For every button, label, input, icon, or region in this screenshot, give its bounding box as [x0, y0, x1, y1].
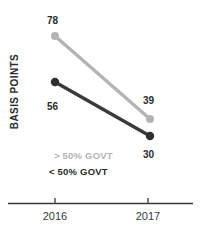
- value-label-high-2017: 39: [143, 95, 154, 106]
- data-point-low-2016: [51, 78, 59, 86]
- series-line-high: [55, 36, 150, 119]
- x-axis-label-2017: 2017: [118, 210, 178, 222]
- data-point-high-2016: [51, 32, 59, 40]
- x-axis-label-2016: 2016: [25, 210, 85, 222]
- slope-chart: BASIS POINTS 78 39 56 30 > 50% GOVT < 50…: [0, 0, 201, 238]
- chart-plot-area: [0, 0, 201, 238]
- data-point-low-2017: [146, 132, 154, 140]
- value-label-low-2017: 30: [143, 149, 154, 160]
- legend-entry-low: < 50% GOVT: [49, 166, 108, 177]
- value-label-low-2016: 56: [47, 101, 58, 112]
- series-line-low: [55, 82, 150, 136]
- y-axis-title: BASIS POINTS: [9, 52, 20, 132]
- legend-entry-high: > 50% GOVT: [54, 150, 113, 161]
- data-point-high-2017: [146, 115, 154, 123]
- value-label-high-2016: 78: [47, 15, 58, 26]
